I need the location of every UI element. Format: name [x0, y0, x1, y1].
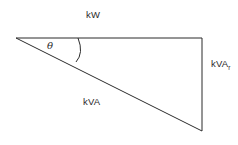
reactive-power-label: kVAr — [211, 59, 231, 71]
reactive-power-label-subscript: r — [228, 64, 230, 71]
reactive-power-label-main: kVA — [211, 58, 228, 69]
apparent-power-label: kVA — [83, 97, 100, 107]
real-power-label: kW — [86, 10, 100, 20]
angle-arc — [76, 38, 81, 62]
power-triangle-diagram: kW kVAr kVA θ — [0, 0, 238, 145]
apparent-power-hypotenuse-line — [16, 38, 202, 131]
power-triangle-graphic — [0, 0, 238, 145]
angle-theta-label: θ — [47, 41, 53, 51]
